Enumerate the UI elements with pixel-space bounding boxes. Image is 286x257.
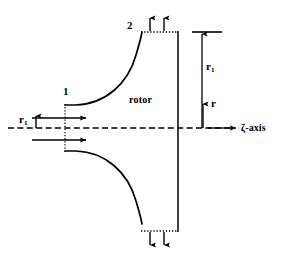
- rotor-label: rotor: [129, 95, 152, 105]
- station-1-label: 1: [63, 86, 69, 97]
- zeta-axis-label: ζ-axis: [241, 123, 266, 133]
- inlet-radius-subscript-right: 1: [211, 66, 215, 74]
- hub-contour-lower: [65, 151, 142, 224]
- station-2-label: 2: [127, 20, 133, 31]
- r1-right-dimension: [192, 32, 222, 128]
- inlet-radius-subscript-left: 1: [24, 119, 28, 127]
- rotor-meridional-diagram: 1 2 rotor r1 r1 r ζ-axis: [0, 0, 286, 257]
- inlet-radius-label-left: r1: [19, 114, 27, 125]
- radial-coordinate-label: r: [211, 98, 216, 109]
- inlet-radius-label-right: r1: [206, 61, 214, 72]
